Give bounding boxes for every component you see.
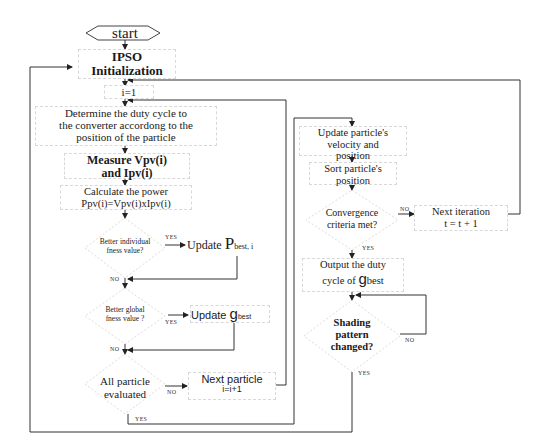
ipso-initialization-box: IPSO Initialization bbox=[78, 49, 176, 79]
velocity-line-1: Update particle's bbox=[300, 127, 406, 139]
output-gbest-main: g bbox=[358, 270, 366, 287]
output-gbest-sub: best bbox=[367, 275, 384, 286]
duty-line-1: Determine the duty cycle to bbox=[36, 107, 216, 119]
calc-line-1: Calculate the power bbox=[61, 186, 191, 198]
calculate-power-box: Calculate the power Ppv(i)=Vpv(i)xIpv(i) bbox=[60, 185, 192, 210]
shading-line-2: pattern bbox=[312, 329, 392, 341]
calc-line-2: Ppv(i)=Vpv(i)xIpv(i) bbox=[61, 198, 191, 210]
measure-line-2: and Ipv(i) bbox=[65, 167, 189, 180]
sort-line-1: Sort particle's bbox=[310, 163, 396, 175]
velocity-line-2: velocity and bbox=[300, 139, 406, 151]
duty-line-3: position of the particle bbox=[36, 131, 216, 143]
start-terminal: start bbox=[90, 25, 160, 42]
individual-line-2: fness value? bbox=[80, 247, 170, 256]
update-pbest-prefix: Update bbox=[187, 238, 225, 252]
measure-box: Measure Vpv(i) and Ipv(i) bbox=[64, 153, 190, 179]
next-iter-line-1: Next iteration bbox=[415, 206, 507, 218]
decision-all-evaluated: All particle evaluated bbox=[85, 375, 165, 400]
next-particle-line-2: i=i+1 bbox=[189, 385, 275, 395]
all-yes-label: YES bbox=[135, 416, 147, 422]
output-line-2: cycle of gbest bbox=[303, 271, 403, 288]
update-velocity-box: Update particle's velocity and position bbox=[299, 126, 407, 156]
output-duty-cycle-box: Output the duty cycle of gbest bbox=[302, 258, 404, 292]
shading-no-label: NO bbox=[405, 337, 414, 343]
update-gbest-prefix: Update bbox=[191, 309, 230, 321]
individual-no-label: NO bbox=[110, 276, 119, 282]
update-pbest-box: Update Pbest, i bbox=[186, 234, 278, 256]
conv-yes-label: YES bbox=[362, 245, 374, 251]
sort-position-box: Sort particle's position bbox=[309, 162, 397, 185]
shading-yes-label: YES bbox=[358, 370, 370, 376]
ipso-label: IPSO bbox=[79, 50, 175, 64]
decision-shading: Shading pattern changed? bbox=[312, 317, 392, 353]
all-line-2: evaluated bbox=[85, 388, 165, 401]
shading-line-1: Shading bbox=[312, 317, 392, 329]
next-iter-line-2: t = t + 1 bbox=[415, 218, 507, 230]
next-iteration-box: Next iteration t = t + 1 bbox=[414, 205, 508, 231]
global-yes-label: YES bbox=[165, 319, 177, 325]
all-line-1: All particle bbox=[85, 375, 165, 388]
update-gbest-sub: best bbox=[238, 313, 251, 320]
all-no-label: NO bbox=[167, 389, 176, 395]
duty-line-2: the converter accordong to the bbox=[36, 119, 216, 131]
output-line-2-prefix: cycle of bbox=[322, 275, 358, 286]
shading-line-3: changed? bbox=[312, 341, 392, 353]
decision-convergence: Convergence criteria met? bbox=[306, 207, 398, 230]
global-no-label: NO bbox=[110, 346, 119, 352]
determine-duty-cycle-box: Determine the duty cycle to the converte… bbox=[35, 106, 217, 146]
next-particle-box: Next particle i=i+1 bbox=[188, 372, 276, 400]
output-line-1: Output the duty bbox=[303, 259, 403, 271]
update-pbest-sub: best, i bbox=[234, 242, 253, 251]
conv-line-2: criteria met? bbox=[306, 219, 398, 231]
update-gbest-main: g bbox=[230, 305, 238, 322]
sort-line-2: position bbox=[310, 175, 396, 187]
i-init-box: i=1 bbox=[104, 85, 154, 99]
global-line-2: fness value ? bbox=[80, 315, 170, 324]
conv-no-label: NO bbox=[400, 206, 409, 212]
initialization-label: Initialization bbox=[79, 64, 175, 78]
conv-line-1: Convergence bbox=[306, 207, 398, 219]
individual-yes-label: YES bbox=[165, 234, 177, 240]
update-gbest-box: Update gbest bbox=[190, 305, 270, 323]
decision-global: Better global fness value ? bbox=[80, 306, 170, 323]
update-pbest-main: P bbox=[225, 234, 234, 253]
decision-individual: Better individual fness value? bbox=[80, 238, 170, 255]
velocity-line-3: position bbox=[300, 150, 406, 162]
